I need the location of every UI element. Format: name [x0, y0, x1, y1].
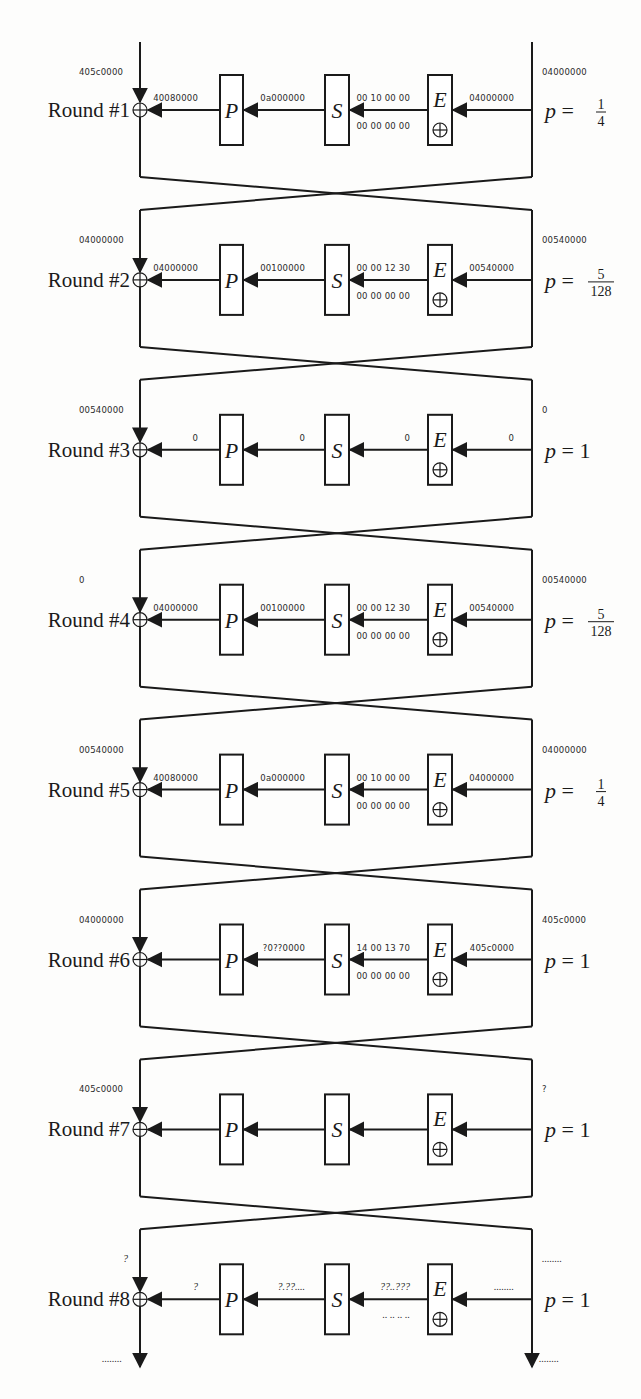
e-input-value: ........: [494, 1281, 514, 1292]
right-input-value: 00540000: [542, 235, 587, 245]
p-output-value: 40080000: [153, 773, 198, 783]
probability-symbol: p = 1: [543, 438, 590, 463]
permutation-label: P: [224, 438, 238, 463]
s-input-top-value: 00 10 00 00: [356, 93, 410, 103]
left-input-value: 00540000: [79, 405, 124, 415]
xor-icon: [133, 613, 147, 627]
round-probability: p = 1: [543, 948, 590, 973]
probability-symbol: p =: [543, 98, 574, 123]
left-input-value: 0: [79, 575, 85, 585]
probability-numerator: 1: [598, 97, 605, 112]
probability-symbol: p = 1: [543, 1117, 590, 1142]
sbox-label: S: [332, 778, 343, 803]
right-input-value: 405c0000: [542, 915, 586, 925]
expansion-label: E: [432, 767, 447, 792]
key-xor-icon: [433, 1312, 447, 1326]
s-output-value: 0a000000: [260, 773, 305, 783]
xor-icon: [133, 953, 147, 967]
round-probability: p =14: [543, 97, 606, 129]
probability-symbol: p = 1: [543, 948, 590, 973]
right-input-value: 0: [542, 405, 548, 415]
xor-icon: [133, 1292, 147, 1306]
e-input-value: 00540000: [469, 603, 514, 613]
probability-symbol: p =: [543, 778, 574, 803]
round-5: PSERound #50054000004000000400800000a000…: [48, 720, 606, 890]
permutation-label: P: [224, 608, 238, 633]
differential-characteristic-diagram: PSERound #1405c000004000000400800000a000…: [0, 0, 641, 1399]
xor-icon: [133, 783, 147, 797]
right-output-value: ........: [539, 1353, 559, 1364]
sbox-label: S: [332, 1117, 343, 1142]
round-probability: p = 1: [543, 1287, 590, 1312]
round-label: Round #8: [48, 1287, 130, 1311]
right-input-value: 04000000: [542, 745, 587, 755]
probability-denominator: 4: [598, 114, 605, 129]
key-xor-icon: [433, 123, 447, 137]
probability-symbol: p =: [543, 608, 574, 633]
p-output-value: 04000000: [153, 603, 198, 613]
round-7: PSERound #7405c0000?p = 1: [48, 1059, 591, 1229]
key-xor-icon: [433, 1142, 447, 1156]
rounds-layer: PSERound #1405c000004000000400800000a000…: [48, 42, 614, 1367]
e-input-value: 04000000: [469, 773, 514, 783]
permutation-label: P: [224, 268, 238, 293]
left-input-value: 04000000: [79, 915, 124, 925]
permutation-label: P: [224, 778, 238, 803]
left-input-value: 405c0000: [79, 1084, 123, 1094]
s-output-value: ?.??....: [278, 1281, 306, 1292]
round-label: Round #4: [48, 608, 131, 632]
s-input-bottom-value: 00 00 00 00: [356, 291, 410, 301]
probability-denominator: 4: [598, 794, 605, 809]
s-input-top-value: 0: [404, 433, 410, 443]
s-input-bottom-value: 00 00 00 00: [356, 971, 410, 981]
expansion-label: E: [432, 597, 447, 622]
left-input-value: 405c0000: [79, 67, 123, 77]
right-input-value: 04000000: [542, 67, 587, 77]
expansion-label: E: [432, 1106, 447, 1131]
probability-symbol: p = 1: [543, 1287, 590, 1312]
expansion-label: E: [432, 427, 447, 452]
expansion-label: E: [432, 87, 447, 112]
p-output-value: 40080000: [153, 93, 198, 103]
probability-denominator: 128: [591, 624, 612, 639]
sbox-label: S: [332, 608, 343, 633]
round-4: PSERound #4000540000040000000010000000 0…: [48, 550, 614, 720]
s-input-bottom-value: 00 00 00 00: [356, 121, 410, 131]
xor-icon: [133, 103, 147, 117]
s-output-value: ?0??0000: [263, 943, 305, 953]
left-input-value: ?: [123, 1253, 128, 1264]
s-input-top-value: ??..???: [380, 1281, 410, 1292]
round-probability: p = 1: [543, 1117, 590, 1142]
right-input-value: 00540000: [542, 575, 587, 585]
e-input-value: 04000000: [469, 93, 514, 103]
sbox-label: S: [332, 1287, 343, 1312]
p-output-value: 04000000: [153, 263, 198, 273]
right-input-value: ........: [542, 1253, 562, 1264]
round-probability: p =5128: [543, 607, 614, 639]
key-xor-icon: [433, 803, 447, 817]
xor-icon: [133, 1122, 147, 1136]
right-input-value: ?: [542, 1084, 547, 1094]
key-xor-icon: [433, 633, 447, 647]
permutation-label: P: [224, 98, 238, 123]
round-8: PSERound #8?........??.??....??..???.. .…: [48, 1229, 591, 1367]
permutation-label: P: [224, 1287, 238, 1312]
key-xor-icon: [433, 973, 447, 987]
sbox-label: S: [332, 98, 343, 123]
s-output-value: 00100000: [260, 603, 305, 613]
sbox-label: S: [332, 438, 343, 463]
probability-numerator: 5: [598, 607, 605, 622]
permutation-label: P: [224, 948, 238, 973]
probability-symbol: p =: [543, 268, 574, 293]
s-input-top-value: 00 00 12 30: [356, 603, 410, 613]
key-xor-icon: [433, 293, 447, 307]
round-2: PSERound #204000000005400000400000000100…: [48, 210, 614, 380]
p-output-value: 0: [192, 433, 198, 443]
s-output-value: 00100000: [260, 263, 305, 273]
left-output-value: ........: [102, 1353, 122, 1364]
probability-numerator: 1: [598, 777, 605, 792]
round-label: Round #7: [48, 1117, 130, 1141]
left-input-value: 04000000: [79, 235, 124, 245]
e-input-value: 405c0000: [470, 943, 514, 953]
sbox-label: S: [332, 268, 343, 293]
